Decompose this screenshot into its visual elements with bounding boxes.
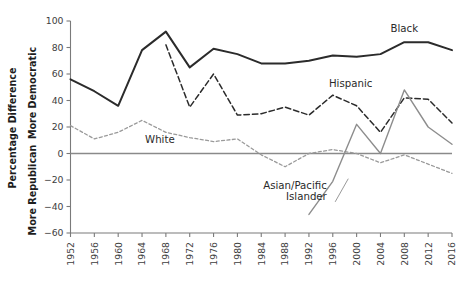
y-tick-label: 0 xyxy=(58,148,64,159)
series-line-black xyxy=(71,32,453,106)
y-tick-label: 80 xyxy=(52,42,64,53)
x-tick-label: 1960 xyxy=(113,242,124,266)
x-tick-label: 1984 xyxy=(256,242,267,266)
x-tick-label: 2016 xyxy=(446,242,457,266)
series-line-asian-pacific-islander xyxy=(309,90,452,215)
y-tick-label: −40 xyxy=(44,201,64,212)
y-axis-title-more-democratic: More Democratic xyxy=(27,47,38,140)
x-tick-label: 2008 xyxy=(399,242,410,266)
y-axis-title-outer: Percentage Difference xyxy=(7,67,18,188)
series-line-white xyxy=(71,120,453,173)
x-tick-label: 1968 xyxy=(160,242,171,266)
y-axis-titles: Percentage Difference More Democratic Mo… xyxy=(7,47,38,236)
x-tick-label: 2000 xyxy=(351,242,362,266)
x-tick-label: 1992 xyxy=(303,242,314,266)
series-label-asian-pacific: Asian/Pacific xyxy=(263,180,327,191)
series-line-hispanic xyxy=(166,45,452,132)
x-tick-label: 1952 xyxy=(65,242,76,266)
y-axis-ticks: 100806040200−20−40−60 xyxy=(44,15,71,238)
x-tick-label: 1980 xyxy=(232,242,243,266)
y-tick-label: 20 xyxy=(52,121,64,132)
percentage-difference-line-chart: Percentage Difference More Democratic Mo… xyxy=(0,0,459,282)
x-tick-label: 1988 xyxy=(279,242,290,266)
chart-container: Percentage Difference More Democratic Mo… xyxy=(0,0,459,282)
x-axis-ticks: 1952195619601964196819721976198019841988… xyxy=(65,233,458,266)
x-tick-label: 1964 xyxy=(136,242,147,266)
series-annotations: BlackHispanicWhiteAsian/PacificIslander xyxy=(145,23,418,202)
y-tick-label: −60 xyxy=(44,227,64,238)
x-tick-label: 1996 xyxy=(327,242,338,266)
y-tick-label: −20 xyxy=(44,174,64,185)
y-tick-label: 60 xyxy=(52,68,64,79)
x-tick-label: 1956 xyxy=(89,242,100,266)
y-tick-label: 40 xyxy=(52,95,64,106)
x-tick-label: 2004 xyxy=(375,242,386,266)
series-label-black: Black xyxy=(391,23,419,34)
series-label-hispanic: Hispanic xyxy=(329,78,372,89)
asian-pacific-islander-leader-line xyxy=(335,179,348,202)
series-label-white: White xyxy=(145,134,175,145)
x-tick-label: 2012 xyxy=(423,242,434,266)
y-axis-title-more-republican: More Republican xyxy=(27,144,38,235)
y-tick-label: 100 xyxy=(46,15,64,26)
x-tick-label: 1976 xyxy=(208,242,219,266)
series-label-islander: Islander xyxy=(286,191,328,202)
series-lines xyxy=(71,32,453,215)
x-tick-label: 1972 xyxy=(184,242,195,266)
